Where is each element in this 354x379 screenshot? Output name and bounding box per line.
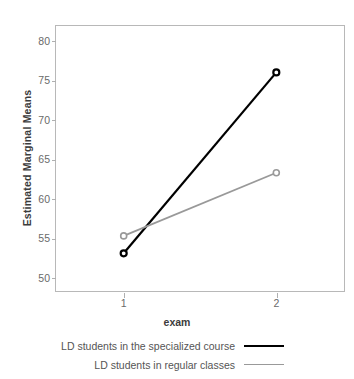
legend-line-swatch [244, 364, 284, 365]
legend-item-label: LD students in regular classes [94, 359, 235, 371]
legend-item: LD students in regular classes [0, 355, 354, 374]
data-point-marker [121, 233, 127, 239]
series-line [124, 173, 277, 236]
x-tick-label: 1 [121, 297, 127, 309]
legend-item-label: LD students in the specialized course [61, 340, 235, 352]
data-point-marker [273, 69, 279, 75]
data-point-marker [121, 250, 127, 256]
data-point-marker [273, 170, 279, 176]
x-axis-title: exam [0, 316, 354, 328]
legend-line-swatch [244, 345, 284, 347]
line-chart: Estimated Marginal Means 50556065707580 … [0, 0, 354, 379]
chart-legend: LD students in the specialized courseLD … [0, 336, 354, 374]
x-tick-label: 2 [273, 297, 279, 309]
legend-item: LD students in the specialized course [0, 336, 354, 355]
